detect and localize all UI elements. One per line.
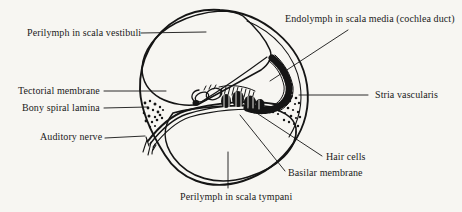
label-hair-cells: Hair cells bbox=[326, 151, 366, 162]
label-basilar-membrane: Basilar membrane bbox=[288, 167, 363, 178]
leader-perilymph-vestibuli bbox=[141, 32, 206, 33]
cochlea-cross-section-figure: Perilymph in scala vestibuli Endolymph i… bbox=[0, 0, 462, 212]
label-endolymph-scala-media: Endolymph in scala media (cochlea duct) bbox=[285, 13, 455, 24]
label-bony-spiral-lamina: Bony spiral lamina bbox=[22, 102, 100, 113]
label-stria-vascularis: Stria vascularis bbox=[375, 89, 438, 100]
label-auditory-nerve: Auditory nerve bbox=[40, 131, 102, 142]
leader-auditory-nerve bbox=[105, 136, 145, 138]
label-perilymph-scala-tympani: Perilymph in scala tympani bbox=[180, 191, 292, 202]
label-perilymph-scala-vestibuli: Perilymph in scala vestibuli bbox=[27, 27, 141, 38]
label-tectorial-membrane: Tectorial membrane bbox=[18, 85, 100, 96]
basilar-membrane-band bbox=[148, 96, 292, 147]
leader-hair-cells bbox=[249, 108, 322, 156]
bony-spiral-lamina-stipple bbox=[143, 100, 164, 128]
leader-bony-lamina bbox=[104, 107, 148, 108]
leader-basilar bbox=[240, 115, 285, 171]
scala-tympani-outline bbox=[165, 106, 296, 181]
